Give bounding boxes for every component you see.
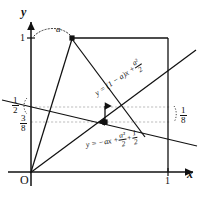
y-axis-label: y: [21, 6, 26, 18]
x-tick-label-1: 1: [165, 176, 170, 186]
origin-label: O: [20, 174, 29, 186]
geometry-figure: y x O 1 1 a 1 2 3 8 1 8 y = (1 − a)x + a…: [0, 0, 201, 198]
a-span-arc: [34, 29, 71, 37]
a-span-label: a: [56, 25, 61, 34]
segment-point-to-origin: [31, 39, 72, 172]
point-intersection: [102, 119, 107, 124]
left-half-fraction: 1 2: [12, 96, 19, 116]
right-gap-brace: [174, 106, 176, 122]
x-axis-label: x: [187, 168, 193, 180]
axes: [8, 22, 193, 186]
guide-lines: [31, 107, 170, 122]
right-eighth-fraction: 1 8: [180, 106, 187, 126]
fraction-denominator: 8: [180, 115, 187, 125]
rising-line: [30, 50, 196, 173]
fraction-numerator: 1: [12, 96, 19, 105]
left-three-eighths-fraction: 3 8: [20, 114, 27, 134]
fraction-denominator: 2: [12, 105, 19, 115]
equation-lhs: y = −ax +: [85, 135, 119, 149]
y-tick-label-1: 1: [20, 33, 25, 43]
fraction-numerator: 1: [180, 106, 187, 115]
point-a-one: [69, 35, 74, 40]
fraction-denominator: 2: [132, 137, 139, 147]
fraction-denominator: 8: [20, 123, 27, 133]
fraction-numerator: 3: [20, 114, 27, 123]
right-brace-curve: [174, 106, 176, 122]
